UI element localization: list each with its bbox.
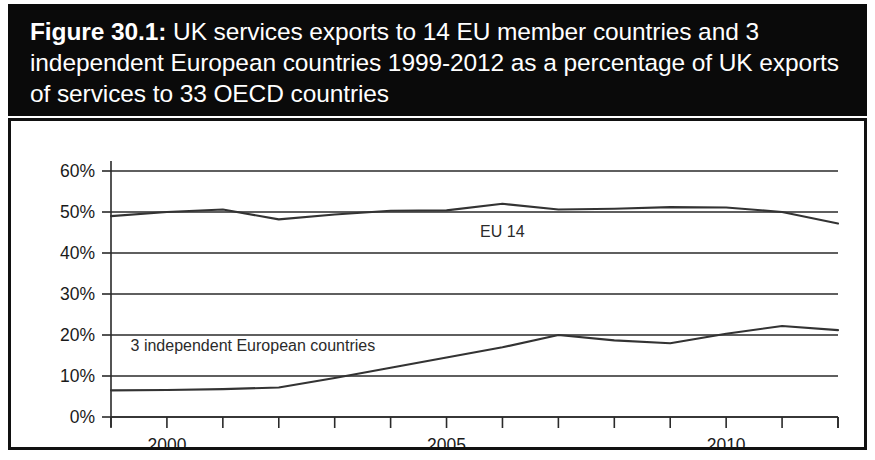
figure-container: Figure 30.1: UK services exports to 14 E… <box>0 0 875 460</box>
figure-title: Figure 30.1: UK services exports to 14 E… <box>30 16 850 109</box>
x-axis-label: 2010 <box>707 435 746 447</box>
series-annotation: 3 independent European countries <box>131 337 376 354</box>
x-axis-label: 2000 <box>147 435 186 447</box>
line-chart: 0%10%20%30%40%50%60%200020052010EU 143 i… <box>11 121 864 447</box>
figure-title-band: Figure 30.1: UK services exports to 14 E… <box>8 4 867 116</box>
y-axis-label: 60% <box>60 161 95 181</box>
y-axis-label: 40% <box>60 243 95 263</box>
chart-frame: 0%10%20%30%40%50%60%200020052010EU 143 i… <box>8 118 867 450</box>
chart-plot-area: 0%10%20%30%40%50%60%200020052010EU 143 i… <box>11 121 864 447</box>
series-line <box>111 204 838 224</box>
y-axis-label: 20% <box>60 325 95 345</box>
series-annotation: EU 14 <box>480 223 525 240</box>
y-axis-label: 30% <box>60 284 95 304</box>
x-axis-label: 2005 <box>427 435 466 447</box>
y-axis-label: 10% <box>60 366 95 386</box>
figure-number: Figure 30.1: <box>30 18 166 45</box>
y-axis-label: 50% <box>60 202 95 222</box>
y-axis-label: 0% <box>70 407 95 427</box>
